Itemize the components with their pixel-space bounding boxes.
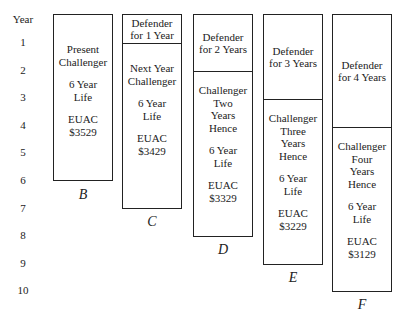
challenger-text-line: Challenger — [59, 56, 107, 69]
defender-text-line: for 3 Years — [269, 57, 317, 70]
life-text-line: Life — [138, 110, 166, 123]
defender-text-line: for 2 Years — [199, 43, 247, 56]
alternative-box-e: Defenderfor 3 YearsChallengerThreeYearsH… — [263, 14, 323, 265]
alternative-label-e: E — [263, 270, 323, 286]
year-axis-title: Year — [0, 13, 46, 25]
year-tick: 7 — [0, 202, 46, 214]
defender-segment: Defenderfor 2 Years — [194, 15, 252, 72]
alternative-box-f: Defenderfor 4 YearsChallengerFourYearsHe… — [332, 14, 392, 292]
euac-text-line: $3129 — [347, 248, 377, 261]
alternative-box-c: Defenderfor 1 YearNext YearChallenger6 Y… — [122, 14, 182, 209]
euac-text-line: $3229 — [278, 220, 308, 233]
challenger-text-line: Years — [199, 109, 247, 122]
challenger-text-line: Years — [338, 165, 386, 178]
euac-text-line: EUAC — [278, 207, 308, 220]
challenger-text-line: Challenger — [269, 112, 317, 125]
year-tick: 10 — [0, 284, 46, 296]
challenger-segment: ChallengerTwoYearsHence6 YearLifeEUAC$33… — [194, 72, 252, 236]
year-tick: 8 — [0, 229, 46, 241]
alternative-label-c: C — [122, 214, 182, 230]
year-tick: 9 — [0, 257, 46, 269]
challenger-text: ChallengerFourYearsHence — [338, 140, 386, 190]
defender-segment: Defenderfor 4 Years — [333, 15, 391, 128]
defender-text-line: Defender — [130, 17, 174, 30]
challenger-text-line: Years — [269, 137, 317, 150]
challenger-segment: PresentChallenger6 YearLifeEUAC$3529 — [54, 15, 112, 180]
alternative-box-b: PresentChallenger6 YearLifeEUAC$3529 — [53, 14, 113, 181]
life-text: 6 YearLife — [69, 78, 97, 103]
life-text-line: Life — [348, 213, 376, 226]
life-text-line: 6 Year — [348, 200, 376, 213]
euac-text: EUAC$3129 — [347, 235, 377, 260]
defender-text: Defenderfor 1 Year — [130, 17, 174, 42]
life-text: 6 YearLife — [279, 172, 307, 197]
year-tick: 3 — [0, 91, 46, 103]
euac-text-line: EUAC — [137, 132, 167, 145]
challenger-segment: Next YearChallenger6 YearLifeEUAC$3429 — [123, 44, 181, 208]
challenger-text-line: Hence — [338, 178, 386, 191]
challenger-text-line: Next Year — [128, 62, 176, 75]
life-text: 6 YearLife — [209, 144, 237, 169]
challenger-text-line: Challenger — [199, 84, 247, 97]
defender-text-line: Defender — [338, 59, 386, 72]
defender-text-line: Defender — [269, 45, 317, 58]
life-text-line: 6 Year — [209, 144, 237, 157]
challenger-text-line: Hence — [199, 122, 247, 135]
defender-segment: Defenderfor 3 Years — [264, 15, 322, 100]
challenger-text-line: Four — [338, 153, 386, 166]
challenger-segment: ChallengerThreeYearsHence6 YearLifeEUAC$… — [264, 100, 322, 264]
alternative-box-d: Defenderfor 2 YearsChallengerTwoYearsHen… — [193, 14, 253, 237]
life-text-line: Life — [69, 91, 97, 104]
life-text-line: 6 Year — [69, 78, 97, 91]
challenger-segment: ChallengerFourYearsHence6 YearLifeEUAC$3… — [333, 128, 391, 291]
alternative-label-f: F — [332, 297, 392, 313]
challenger-text: Next YearChallenger — [128, 62, 176, 87]
year-tick: 6 — [0, 174, 46, 186]
challenger-text-line: Present — [59, 43, 107, 56]
defender-text: Defenderfor 2 Years — [199, 31, 247, 56]
challenger-text-line: Two — [199, 97, 247, 110]
challenger-text-line: Hence — [269, 150, 317, 163]
challenger-text: ChallengerTwoYearsHence — [199, 84, 247, 134]
defender-text: Defenderfor 4 Years — [338, 59, 386, 84]
euac-text-line: EUAC — [208, 179, 238, 192]
life-text-line: Life — [209, 157, 237, 170]
defender-text: Defenderfor 3 Years — [269, 45, 317, 70]
euac-text-line: EUAC — [347, 235, 377, 248]
alternative-label-d: D — [193, 242, 253, 258]
defender-text-line: for 4 Years — [338, 71, 386, 84]
euac-text-line: EUAC — [68, 113, 98, 126]
euac-text-line: $3529 — [68, 126, 98, 139]
euac-text-line: $3429 — [137, 145, 167, 158]
life-text-line: Life — [279, 185, 307, 198]
life-text: 6 YearLife — [138, 97, 166, 122]
euac-text: EUAC$3529 — [68, 113, 98, 138]
life-text-line: 6 Year — [279, 172, 307, 185]
challenger-text-line: Challenger — [128, 75, 176, 88]
defender-text-line: Defender — [199, 31, 247, 44]
euac-text-line: $3329 — [208, 192, 238, 205]
challenger-text-line: Three — [269, 125, 317, 138]
challenger-text-line: Challenger — [338, 140, 386, 153]
euac-text: EUAC$3429 — [137, 132, 167, 157]
euac-text: EUAC$3229 — [278, 207, 308, 232]
euac-text: EUAC$3329 — [208, 179, 238, 204]
defender-segment: Defenderfor 1 Year — [123, 15, 181, 44]
year-tick: 5 — [0, 146, 46, 158]
life-text-line: 6 Year — [138, 97, 166, 110]
year-tick: 2 — [0, 64, 46, 76]
challenger-text: PresentChallenger — [59, 43, 107, 68]
defender-text-line: for 1 Year — [130, 29, 174, 42]
challenger-text: ChallengerThreeYearsHence — [269, 112, 317, 162]
life-text: 6 YearLife — [348, 200, 376, 225]
alternative-label-b: B — [53, 187, 113, 203]
year-tick: 1 — [0, 36, 46, 48]
year-tick: 4 — [0, 119, 46, 131]
